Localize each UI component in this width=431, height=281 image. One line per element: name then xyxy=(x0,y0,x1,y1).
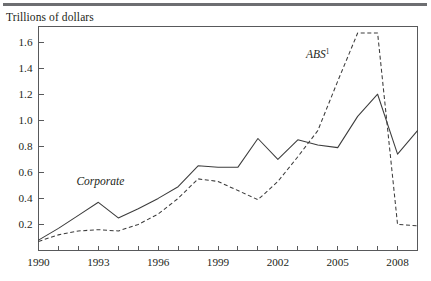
y-tick-label: 1.2 xyxy=(19,88,33,100)
data-series-group xyxy=(39,33,418,241)
y-tick-label: 1.4 xyxy=(19,62,33,74)
x-tick-label: 2002 xyxy=(267,256,289,268)
chart-canvas: 0.20.40.60.81.01.21.41.6 199019931996199… xyxy=(0,0,431,281)
y-tick-label: 1.6 xyxy=(19,36,33,48)
y-tick-label: 0.4 xyxy=(19,192,33,204)
plot-frame xyxy=(39,27,418,251)
y-tick-label: 0.2 xyxy=(19,218,33,230)
x-tick-label: 1993 xyxy=(87,256,110,268)
x-tick-label: 1990 xyxy=(27,256,50,268)
series-line-corporate xyxy=(39,94,418,240)
series-label-abs: ABS1 xyxy=(305,48,330,60)
series-label-corporate: Corporate xyxy=(76,175,124,188)
y-axis-ticks xyxy=(39,42,44,224)
y-tick-label: 0.6 xyxy=(19,166,33,178)
x-tick-label: 1996 xyxy=(147,256,170,268)
y-tick-label: 1.0 xyxy=(19,114,33,126)
y-axis-tick-labels: 0.20.40.60.81.01.21.41.6 xyxy=(19,36,33,230)
x-tick-label: 2005 xyxy=(327,256,350,268)
series-annotations: CorporateABS1 xyxy=(76,48,329,189)
x-tick-label: 1999 xyxy=(207,256,230,268)
x-axis-tick-labels: 1990199319961999200220052008 xyxy=(27,256,409,268)
y-tick-label: 0.8 xyxy=(19,140,33,152)
x-axis-ticks xyxy=(39,246,418,251)
x-tick-label: 2008 xyxy=(386,256,409,268)
series-line-abs xyxy=(39,33,418,241)
line-chart: 0.20.40.60.81.01.21.41.6 199019931996199… xyxy=(0,0,431,281)
